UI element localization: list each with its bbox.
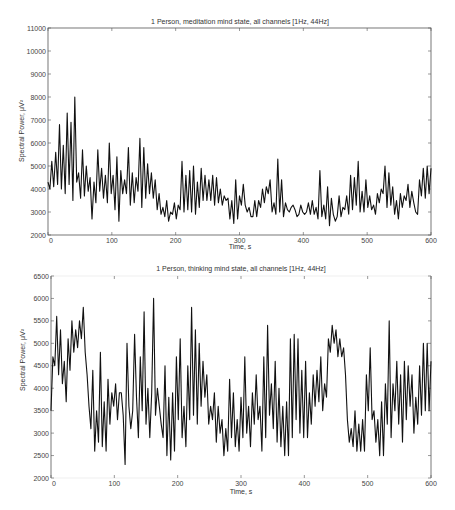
y-tick-label: 6000 [33, 295, 49, 302]
thinking-chart-panel: 1 Person, thinking mind state, all chann… [0, 0, 455, 510]
x-tick-label: 300 [235, 480, 247, 487]
y-tick-label: 2500 [33, 452, 49, 459]
x-tick-label: 600 [425, 480, 437, 487]
data-series-line [51, 298, 431, 464]
y-tick-label: 3000 [33, 430, 49, 437]
x-tick-label: 200 [172, 480, 184, 487]
x-tick-label: 0 [52, 480, 56, 487]
y-tick-label: 6500 [33, 273, 49, 280]
y-tick-label: 5000 [33, 340, 49, 347]
y-tick-label: 4000 [33, 385, 49, 392]
x-tick-label: 400 [298, 480, 310, 487]
thinking-plot-area: 2000250030003500400045005000550060006500… [0, 0, 455, 510]
y-tick-label: 2000 [33, 475, 49, 482]
y-tick-label: 4500 [33, 362, 49, 369]
y-tick-label: 3500 [33, 407, 49, 414]
x-tick-label: 100 [108, 480, 120, 487]
y-tick-label: 5500 [33, 317, 49, 324]
x-tick-label: 500 [362, 480, 374, 487]
